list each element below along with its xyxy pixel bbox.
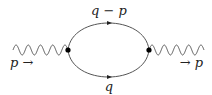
incoming-momentum-label: p → — [10, 55, 33, 70]
outgoing-photon-line — [149, 45, 204, 55]
incoming-photon-line — [13, 45, 68, 55]
left-vertex — [65, 47, 70, 52]
right-vertex — [146, 47, 151, 52]
feynman-diagram: q − p q p → → p — [0, 0, 212, 95]
upper-propagator — [68, 23, 149, 50]
upper-arrow-icon — [107, 21, 112, 25]
lower-momentum-label: q — [105, 79, 113, 94]
outgoing-momentum-label: → p — [180, 55, 204, 70]
upper-momentum-label: q − p — [91, 3, 127, 18]
lower-propagator — [68, 50, 149, 77]
